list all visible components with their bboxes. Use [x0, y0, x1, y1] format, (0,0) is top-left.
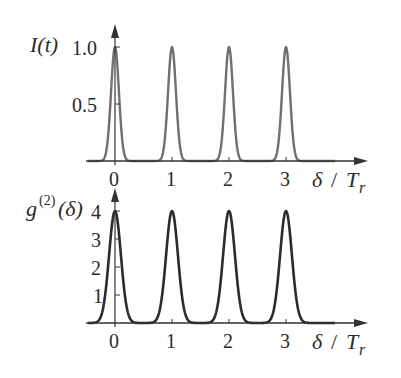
ytick-label: 4 [91, 201, 101, 223]
svg-text:/: / [331, 329, 338, 354]
xtick-label: 1 [166, 168, 176, 190]
top-x-axis-arrow-icon [354, 157, 368, 165]
xtick-label: 2 [223, 330, 233, 352]
svg-text:r: r [359, 179, 366, 196]
svg-text:(2): (2) [39, 193, 56, 209]
bottom-xlabel: δ / T r [312, 329, 366, 358]
intensity-curve [88, 47, 335, 161]
bottom-x-axis-arrow-icon [354, 319, 368, 327]
top-ylabel: I(t) [29, 32, 58, 57]
ytick-label: 1.0 [72, 37, 97, 59]
ytick-label: 2 [91, 257, 101, 279]
xtick-label: 0 [109, 330, 119, 352]
xtick-label: 1 [166, 330, 176, 352]
svg-text:/: / [331, 167, 338, 192]
svg-text:T: T [346, 329, 360, 354]
g2-curve [88, 211, 335, 323]
xtick-label: 2 [223, 168, 233, 190]
ytick-label: 1 [93, 285, 103, 307]
svg-text:g: g [26, 196, 37, 221]
top-y-axis-arrow-icon [111, 24, 119, 38]
bottom-y-axis-arrow-icon [111, 188, 119, 202]
top-panel: I(t) 1.0 0.5 0 1 2 3 δ / T r [29, 24, 368, 196]
bottom-ylabel: g (2) (δ) [26, 193, 83, 221]
svg-text:r: r [359, 341, 366, 358]
svg-text:T: T [346, 167, 360, 192]
xtick-label: 0 [109, 168, 119, 190]
figure: I(t) 1.0 0.5 0 1 2 3 δ / T r [0, 0, 401, 378]
top-xlabel: δ / T r [312, 167, 366, 196]
xtick-label: 3 [280, 330, 290, 352]
bottom-panel: g (2) (δ) 4 3 2 1 0 1 2 3 δ / T r [26, 188, 368, 358]
svg-text:(δ): (δ) [58, 196, 83, 221]
ytick-label: 0.5 [72, 94, 97, 116]
ytick-label: 3 [91, 229, 101, 251]
svg-text:δ: δ [312, 329, 323, 354]
xtick-label: 3 [280, 168, 290, 190]
svg-text:δ: δ [312, 167, 323, 192]
